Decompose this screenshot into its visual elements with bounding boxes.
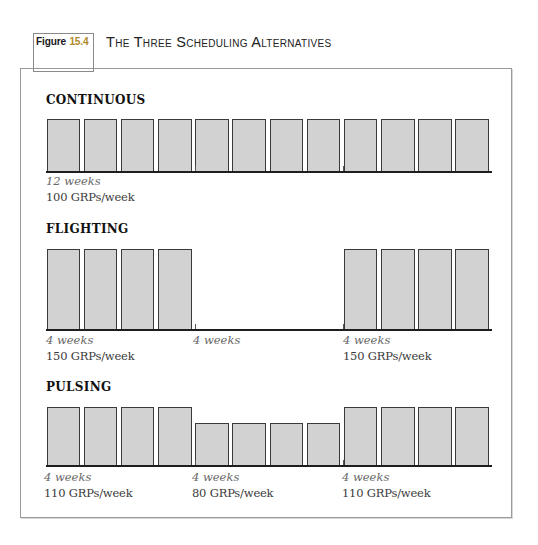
week-boundary-tick — [343, 166, 344, 171]
week-boundary-tick — [343, 324, 344, 329]
bar-week-2 — [84, 407, 118, 465]
bar-week-12 — [455, 119, 489, 171]
flighting-weeks-label-1: 4 weeks — [46, 333, 93, 347]
bar-week-4 — [158, 249, 192, 329]
bar-week-8 — [307, 423, 341, 465]
bar-week-11 — [418, 119, 452, 171]
bar-week-7 — [270, 119, 304, 171]
pulsing-weeks-label-1: 4 weeks — [44, 470, 91, 484]
week-boundary-tick — [343, 460, 344, 465]
bar-week-6 — [232, 423, 266, 465]
baseline-axis — [46, 171, 492, 173]
bar-week-12 — [455, 249, 489, 329]
week-boundary-tick — [195, 166, 196, 171]
figure-word: Figure — [36, 35, 66, 47]
bar-week-1 — [47, 249, 81, 329]
bar-week-1 — [47, 407, 81, 465]
bar-week-9 — [344, 249, 378, 329]
pulsing-grps-label-3: 110 GRPs/week — [342, 486, 430, 500]
bar-week-8 — [307, 119, 341, 171]
bar-week-10 — [381, 119, 415, 171]
baseline-axis — [46, 329, 492, 331]
section-heading-continuous: CONTINUOUS — [46, 93, 146, 107]
bar-week-4 — [158, 119, 192, 171]
week-boundary-tick — [195, 460, 196, 465]
figure-title: The Three Scheduling Alternatives — [106, 34, 331, 50]
bar-week-4 — [158, 407, 192, 465]
pulsing-grps-label-2: 80 GRPs/week — [192, 486, 273, 500]
flighting-weeks-label-3: 4 weeks — [343, 333, 390, 347]
section-heading-pulsing: PULSING — [46, 380, 112, 394]
bar-week-3 — [121, 249, 155, 329]
baseline-axis — [46, 465, 492, 467]
bar-week-2 — [84, 249, 118, 329]
bar-week-7 — [270, 423, 304, 465]
week-boundary-tick — [195, 324, 196, 329]
figure-number: 15.4 — [69, 35, 88, 47]
bar-week-9 — [344, 119, 378, 171]
pulsing-weeks-label-2: 4 weeks — [192, 470, 239, 484]
bar-week-2 — [84, 119, 118, 171]
bar-week-10 — [381, 407, 415, 465]
flighting-grps-label-3: 150 GRPs/week — [343, 349, 431, 363]
flighting-grps-label-1: 150 GRPs/week — [46, 349, 134, 363]
bar-week-5 — [195, 119, 229, 171]
continuous-weeks-label: 12 weeks — [46, 174, 101, 188]
figure-label: Figure15.4 — [36, 35, 88, 47]
bar-week-10 — [381, 249, 415, 329]
pulsing-grps-label-1: 110 GRPs/week — [44, 486, 132, 500]
bar-week-6 — [232, 119, 266, 171]
bar-week-11 — [418, 249, 452, 329]
bar-week-9 — [344, 407, 378, 465]
continuous-grps-label: 100 GRPs/week — [46, 190, 134, 204]
bar-week-3 — [121, 407, 155, 465]
bar-week-1 — [47, 119, 81, 171]
section-heading-flighting: FLIGHTING — [46, 222, 129, 236]
flighting-weeks-label-2: 4 weeks — [193, 333, 240, 347]
bar-week-5 — [195, 423, 229, 465]
bar-week-11 — [418, 407, 452, 465]
bar-week-3 — [121, 119, 155, 171]
bar-week-12 — [455, 407, 489, 465]
pulsing-weeks-label-3: 4 weeks — [342, 470, 389, 484]
